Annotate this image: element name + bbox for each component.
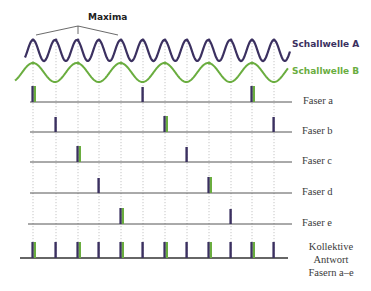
fiber-a-label: Faser a [303,95,333,106]
volley-principle-diagram: Maxima Schallwelle A Schallwelle B Faser… [0,0,371,291]
spike [54,242,56,258]
spike-green [76,242,81,258]
spike [185,147,187,162]
spike-green [119,242,124,258]
maxima-pointer-lines [36,26,118,35]
fiber-row-e [28,208,292,224]
collective-label-line-3: Fasern a–e [296,266,366,279]
spike [141,87,143,102]
wave-a-label: Schallwelle A [292,39,359,49]
spike [97,242,99,258]
spike-green [31,86,36,102]
spike [229,242,231,258]
spike-green [31,242,36,258]
fiber-b-label: Faser b [302,125,333,136]
spike-green [207,177,212,193]
sound-wave-a [25,40,290,61]
spike-green [207,242,212,258]
wave-b-label: Schallwelle B [292,66,359,76]
fiber-c-label: Faser c [302,155,332,166]
spike [272,117,274,132]
collective-label-line-2: Antwort [296,253,366,266]
spike-green [119,208,124,224]
maxima-label: Maxima [88,12,127,22]
spike [97,178,99,193]
spike-green [250,242,255,258]
spike [141,242,143,258]
fiber-row-c [30,146,292,162]
fiber-d-label: Faser d [302,186,333,197]
maxima-pointer-line [36,26,78,35]
spike [54,117,56,132]
fiber-row-a [30,86,292,102]
maxima-pointer-line [78,26,118,35]
fiber-row-d [30,177,292,193]
spike [272,242,274,258]
fiber-row-b [30,116,292,132]
spike-green [163,242,168,258]
spike-green [163,116,168,132]
collective-label-line-1: Kollektive [296,240,366,253]
fiber-e-label: Faser e [302,217,332,228]
collective-response-label: Kollektive Antwort Fasern a–e [296,240,366,279]
spike-green [76,146,81,162]
spike-green [250,86,255,102]
collective-response-row [20,242,288,258]
spike [185,242,187,258]
spike [229,209,231,224]
